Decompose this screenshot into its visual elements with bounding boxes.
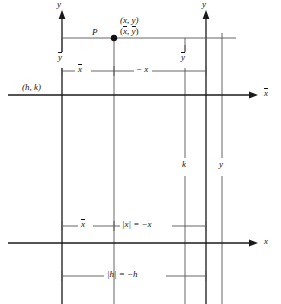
- dim-label-minus-x-upper: − x: [136, 65, 148, 74]
- x-axis-label: x: [264, 237, 268, 246]
- dim-label-abs-h: |h| = −h: [107, 270, 138, 279]
- diagram-vector-layer: [0, 0, 281, 304]
- y-axis-label: y: [202, 0, 206, 9]
- xbar-axis-label: x: [264, 89, 268, 98]
- dim-label-abs-x: |x| = −x: [122, 220, 152, 229]
- xbar-glyph: x: [123, 27, 127, 36]
- dim-label-k: k: [182, 160, 186, 169]
- dim-label-xbar-lower: x: [81, 220, 85, 229]
- origin-hk-label: (h, k): [22, 83, 41, 92]
- y-axis-arrowhead: [203, 10, 210, 19]
- ybar-axis-arrowhead: [59, 10, 66, 19]
- abs-h-expression: |h| = −h: [107, 269, 138, 279]
- point-coord-xy-label: (x, y): [120, 16, 138, 25]
- dim-label-ybar-upper-left: y: [58, 53, 62, 62]
- ybar-glyph: y: [132, 27, 136, 36]
- paren-close: ): [136, 26, 139, 36]
- dim-label-xbar-upper: x: [78, 65, 82, 74]
- dim-label-y-right: y: [219, 160, 223, 169]
- ybar-axis-label: y: [57, 0, 61, 9]
- point-p-label: P: [92, 28, 98, 37]
- xbar-axis-arrowhead: [249, 92, 258, 99]
- x-axis-arrowhead: [249, 240, 258, 247]
- dim-label-ybar-upper-right: y: [181, 53, 185, 62]
- abs-x-expression: |x| = −x: [122, 219, 152, 229]
- point-coord-xbar-ybar-label: (x, y): [120, 27, 139, 36]
- figure-canvas: y y x x (h, k) P (x, y) (x, y) y y x − x…: [0, 0, 281, 304]
- point-p-marker: [111, 35, 117, 41]
